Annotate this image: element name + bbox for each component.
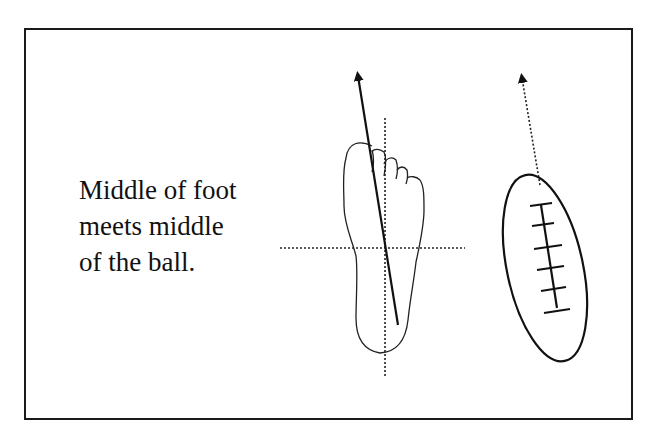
ball-direction-arrow <box>522 78 540 185</box>
football-icon <box>488 167 602 369</box>
crosshair-guides <box>280 118 465 376</box>
foot-icon <box>344 143 425 353</box>
diagram-art <box>0 0 659 437</box>
foot-direction-arrow <box>358 76 398 325</box>
football-laces <box>530 203 570 313</box>
